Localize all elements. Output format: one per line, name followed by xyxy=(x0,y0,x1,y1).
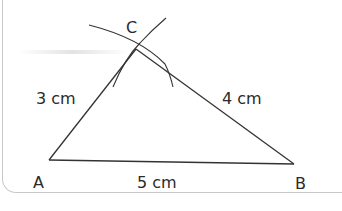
side-cb xyxy=(136,49,294,164)
side-label-ab: 5 cm xyxy=(137,175,177,191)
vertex-label-c: C xyxy=(126,20,137,36)
side-label-cb: 4 cm xyxy=(222,91,262,107)
construction-arc-from-a xyxy=(113,18,166,87)
vertex-label-b: B xyxy=(295,176,306,192)
side-ab xyxy=(49,160,294,164)
vertex-label-a: A xyxy=(33,175,44,191)
side-label-ac: 3 cm xyxy=(36,91,76,107)
